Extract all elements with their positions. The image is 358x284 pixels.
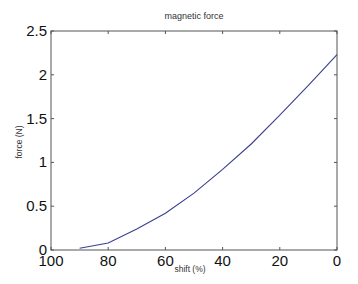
y-tick-label: 1.5 <box>26 110 47 127</box>
x-axis-label: shift (%) <box>174 264 205 274</box>
y-tick-label: 2 <box>39 66 47 83</box>
x-tick-label: 20 <box>271 252 288 269</box>
x-tick-label: 0 <box>333 252 341 269</box>
y-tick-label: 1 <box>39 153 47 170</box>
x-tick-label: 40 <box>214 252 231 269</box>
chart-title: magnetic force <box>164 11 223 21</box>
x-axis-ticks: 100806040200 <box>38 31 341 269</box>
y-tick-label: 0.5 <box>26 197 47 214</box>
x-tick-label: 60 <box>157 252 174 269</box>
line-chart: magnetic force 00.511.522.5 100806040200… <box>0 0 358 284</box>
x-tick-label: 80 <box>100 252 117 269</box>
plot-area <box>51 31 337 250</box>
y-tick-label: 2.5 <box>26 22 47 39</box>
y-axis-ticks: 00.511.522.5 <box>26 22 337 258</box>
x-tick-label: 100 <box>38 252 63 269</box>
force-curve <box>80 55 337 249</box>
y-axis-label: force (N) <box>14 125 24 158</box>
